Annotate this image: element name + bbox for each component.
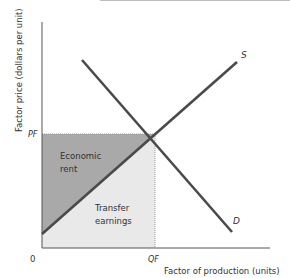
qf-tick-label: QF (148, 255, 159, 264)
transfer-earnings-label-line2: earnings (95, 216, 132, 226)
supply-label: S (241, 50, 247, 60)
transfer-earnings-label-line1: Transfer (94, 203, 130, 213)
origin-label: 0 (30, 254, 35, 264)
demand-label: D (233, 216, 240, 226)
pf-tick-label: PF (28, 130, 38, 139)
economic-rent-label-line2: rent (60, 164, 78, 174)
economic-rent-label-line1: Economic (60, 151, 101, 161)
economic-rent-chart: Factor price (dollars per unit) PF 0 QF … (0, 0, 290, 278)
x-axis-label: Factor of production (units) (164, 266, 280, 276)
y-axis-label: Factor price (dollars per unit) (14, 8, 24, 132)
